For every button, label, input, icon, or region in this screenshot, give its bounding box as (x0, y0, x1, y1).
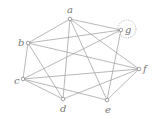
node-label-f: f (142, 63, 149, 74)
edge-c-e (23, 79, 107, 100)
labels: abcdefg (14, 4, 149, 115)
node-a (68, 17, 72, 21)
edge-a-d (63, 19, 70, 99)
edge-a-b (28, 19, 70, 43)
node-label-e: e (105, 104, 111, 115)
edge-e-f (107, 69, 139, 100)
node-d (61, 97, 65, 101)
node-b (26, 41, 30, 45)
edge-a-e (70, 19, 107, 100)
node-c (21, 77, 25, 81)
node-label-d: d (60, 103, 66, 114)
edge-b-c (23, 43, 28, 79)
node-label-c: c (14, 75, 20, 86)
node-g (119, 28, 123, 32)
node-e (105, 98, 109, 102)
node-f (137, 67, 141, 71)
edge-b-g (28, 30, 121, 43)
edge-b-f (28, 43, 139, 69)
graph-diagram: abcdefg (0, 0, 156, 119)
edge-e-g (107, 30, 121, 100)
node-label-g: g (125, 24, 131, 35)
node-label-b: b (18, 37, 24, 48)
nodes (21, 17, 141, 102)
node-label-a: a (67, 4, 73, 15)
edge-d-f (63, 69, 139, 99)
